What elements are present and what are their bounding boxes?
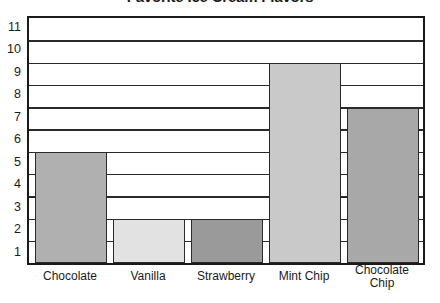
bar-mint-chip[interactable]	[269, 63, 341, 263]
plot-area	[27, 16, 425, 265]
x-axis-label-vanilla: Vanilla	[103, 270, 193, 283]
x-axis-label-vanilla-line1: Vanilla	[130, 269, 165, 283]
y-axis-tick-10: 10	[1, 43, 21, 56]
y-axis-tick-8: 8	[1, 88, 21, 101]
y-axis-tick-1: 1	[1, 246, 21, 259]
y-axis-tick-4: 4	[1, 178, 21, 191]
bar-chocolate[interactable]	[35, 152, 107, 263]
bar-vanilla[interactable]	[113, 219, 185, 263]
y-axis-tick-11: 11	[1, 21, 21, 34]
x-axis-label-chocolate-line1: Chocolate	[43, 269, 97, 283]
y-axis-tick-5: 5	[1, 156, 21, 169]
bar-strawberry[interactable]	[191, 219, 263, 263]
y-axis-tick-7: 7	[1, 111, 21, 124]
x-axis-label-chocolate: Chocolate	[25, 270, 115, 283]
y-axis-tick-2: 2	[1, 223, 21, 236]
x-axis-label-mint-chip: Mint Chip	[259, 270, 349, 283]
gridline-9	[29, 63, 423, 65]
y-axis-tick-3: 3	[1, 201, 21, 214]
x-axis-label-mint-chip-line1: Mint Chip	[279, 269, 330, 283]
gridline-8	[29, 85, 423, 87]
chart-title: Favorite Ice Cream Flavors	[0, 0, 440, 5]
bar-chart: Favorite Ice Cream Flavors 11 10 9 8 7 6…	[0, 0, 440, 303]
bar-chocolate-chip[interactable]	[347, 108, 419, 263]
x-axis-label-strawberry-line1: Strawberry	[197, 269, 255, 283]
x-axis-label-strawberry: Strawberry	[181, 270, 271, 283]
plot-inner	[29, 18, 423, 263]
x-axis-label-chocolate-chip-line2: Chip	[370, 276, 395, 290]
x-axis-label-chocolate-chip-line1: Chocolate	[355, 263, 409, 277]
y-axis-tick-9: 9	[1, 66, 21, 79]
gridline-10	[29, 40, 423, 42]
x-axis-label-chocolate-chip: Chocolate Chip	[337, 264, 427, 290]
y-axis-tick-6: 6	[1, 133, 21, 146]
